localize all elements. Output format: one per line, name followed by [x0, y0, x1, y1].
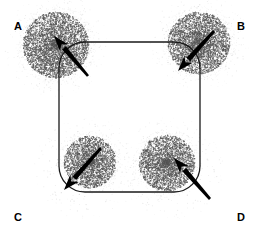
corner-label-d: D	[237, 212, 245, 223]
diagram-canvas	[0, 0, 262, 243]
figure-container: A B C D	[0, 0, 262, 243]
corner-label-c: C	[14, 212, 22, 223]
canvas-background	[0, 0, 262, 243]
corner-label-a: A	[14, 21, 22, 32]
corner-label-b: B	[237, 21, 245, 32]
